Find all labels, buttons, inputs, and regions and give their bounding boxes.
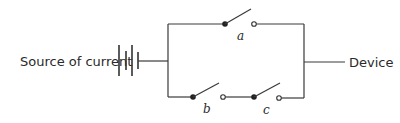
switch-a-label: a: [237, 29, 244, 43]
switch-b: [168, 83, 225, 100]
device-label: Device: [349, 55, 393, 70]
switch-b-label: b: [203, 102, 211, 116]
switch-a: [168, 9, 304, 27]
switch-c: [251, 83, 304, 100]
source-label: Source of current: [20, 54, 132, 69]
circuit-diagram: Source of current a b c Device: [0, 0, 400, 123]
switch-c-label: c: [263, 103, 270, 117]
